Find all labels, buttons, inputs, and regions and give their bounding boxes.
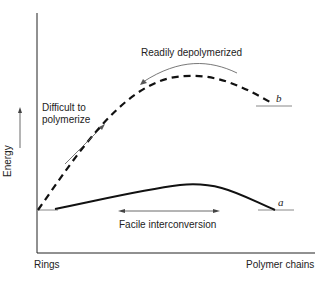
- depolymerize-arrow-icon: [143, 63, 237, 82]
- polymerize-arrow-icon: [65, 126, 103, 164]
- curve-a-label: a: [278, 196, 284, 208]
- x-axis-right-label: Polymer chains: [246, 259, 314, 271]
- difficult-label-line2: polymerize: [42, 114, 90, 126]
- interconversion-label: Facile interconversion: [119, 219, 216, 231]
- depolymerized-label: Readily depolymerized: [141, 47, 242, 59]
- curve-b-label: b: [276, 92, 282, 104]
- difficult-label-line1: Difficult to: [42, 102, 86, 114]
- y-axis-label: Energy: [2, 145, 14, 177]
- energy-diagram: [0, 0, 332, 283]
- curve-a: [55, 184, 275, 210]
- x-axis-left-label: Rings: [34, 259, 60, 271]
